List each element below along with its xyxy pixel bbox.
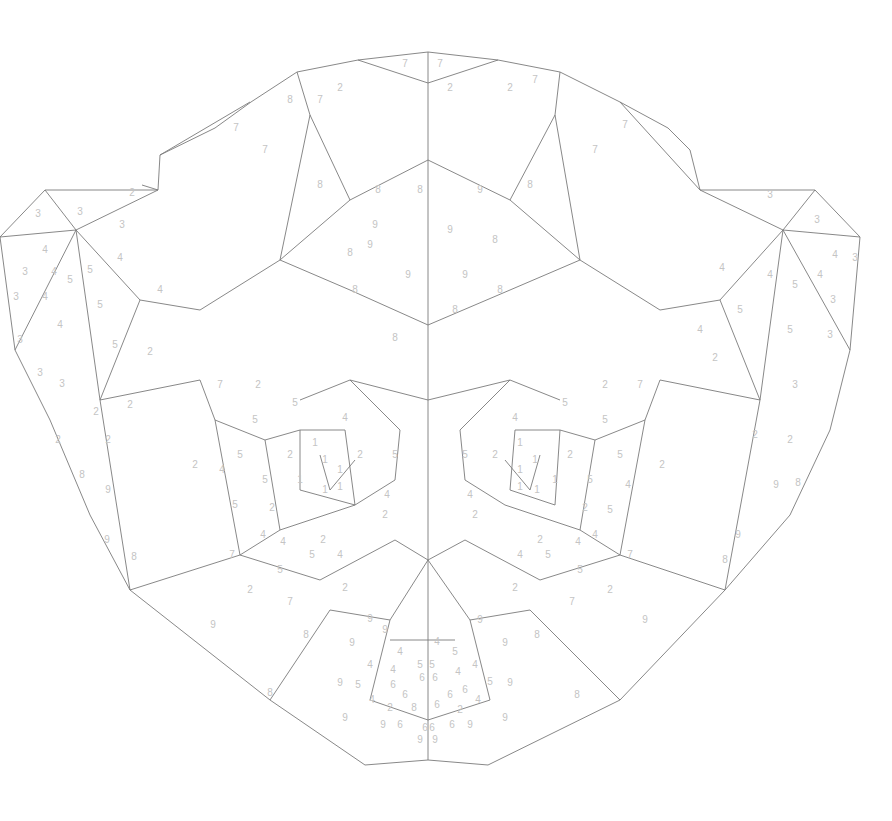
triangle-edge [790,430,830,515]
color-number: 5 [252,414,258,425]
color-number: 2 [287,449,293,460]
triangle-edge [505,505,580,530]
color-number: 5 [452,646,458,657]
color-number: 7 [627,549,633,560]
color-number: 5 [792,279,798,290]
color-number: 9 [382,624,388,635]
color-number: 2 [457,704,463,715]
color-number: 9 [735,529,741,540]
color-number: 8 [527,179,533,190]
color-number: 2 [659,459,665,470]
color-number: 8 [303,629,309,640]
color-number: 2 [129,187,135,198]
triangle-edge [390,560,428,620]
color-number: 9 [105,484,111,495]
color-number: 2 [269,502,275,513]
color-number: 2 [93,406,99,417]
color-number: 7 [233,122,239,133]
color-number: 9 [477,184,483,195]
color-number: 6 [432,672,438,683]
color-number: 5 [355,679,361,690]
triangle-edge [460,380,510,430]
triangle-edge [725,515,790,590]
triangle-edge [330,610,390,620]
color-number: 2 [712,352,718,363]
triangle-edge [645,380,660,420]
triangle-edge [142,185,158,190]
triangle-edge [815,190,860,237]
color-number: 7 [622,119,628,130]
color-number: 5 [607,504,613,515]
color-number: 1 [517,464,523,475]
color-number: 2 [127,399,133,410]
color-number: 1 [337,464,343,475]
color-number: 2 [105,434,111,445]
color-number: 2 [507,82,513,93]
color-number: 4 [57,319,63,330]
triangle-edge [310,115,350,200]
color-number: 7 [317,94,323,105]
color-number: 5 [617,449,623,460]
triangle-edge [510,430,515,490]
color-number: 3 [77,206,83,217]
color-number: 5 [392,449,398,460]
color-number: 2 [602,379,608,390]
color-number: 4 [260,529,266,540]
color-number: 6 [449,719,455,730]
color-number: 2 [752,429,758,440]
triangle-edge [358,52,428,60]
color-number: 4 [697,324,703,335]
color-number: 5 [232,499,238,510]
color-number: 2 [387,702,393,713]
color-number: 3 [13,291,19,302]
color-number: 4 [42,291,48,302]
color-number: 8 [497,284,503,295]
color-number: 5 [562,397,568,408]
triangle-edge [140,300,200,310]
triangle-edge [428,290,510,325]
triangle-edge [428,540,465,560]
color-number: 2 [337,82,343,93]
color-number: 4 [467,489,473,500]
triangle-edge [580,530,620,555]
color-number: 4 [832,249,838,260]
triangle-edge [510,380,560,400]
triangle-edge [783,230,860,237]
color-number: 9 [104,534,110,545]
triangle-edge [76,230,140,300]
color-number: 3 [814,214,820,225]
color-number: 4 [592,529,598,540]
color-number: 2 [607,584,613,595]
color-number: 8 [352,284,358,295]
color-number: 7 [532,74,538,85]
triangle-edge [560,72,620,102]
color-number: 7 [229,549,235,560]
color-number: 5 [577,564,583,575]
color-number: 1 [517,437,523,448]
color-number: 7 [262,144,268,155]
color-number: 6 [402,689,408,700]
triangle-edge [160,128,215,155]
color-number: 7 [402,58,408,69]
color-number: 9 [467,719,473,730]
color-number: 7 [437,58,443,69]
color-number: 5 [262,474,268,485]
color-number: 8 [722,554,728,565]
triangle-edge [465,540,540,580]
color-number: 4 [625,479,631,490]
triangle-edge [297,72,310,115]
color-number: 7 [637,379,643,390]
triangle-edge [660,380,760,400]
color-number: 8 [417,184,423,195]
color-number: 5 [87,264,93,275]
color-number: 9 [342,712,348,723]
triangle-edge [395,540,428,560]
color-number: 2 [342,582,348,593]
low-poly-lemur-face: 7722277877778889899988998888233343455434… [0,0,892,821]
triangle-edge [265,430,300,440]
color-number: 5 [309,549,315,560]
triangle-edge [660,300,720,310]
triangle-edge [300,380,350,400]
color-number: 5 [237,449,243,460]
color-number: 6 [429,722,435,733]
